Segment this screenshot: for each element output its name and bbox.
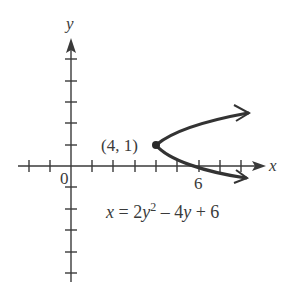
parabola-graph: y x 0 6 (4, 1) x = 2y2 – 4y + 6 — [0, 0, 298, 299]
vertex-point — [152, 141, 160, 149]
vertex-label: (4, 1) — [101, 136, 138, 155]
x-tick-label-6: 6 — [194, 174, 203, 193]
equation-label: x = 2y2 – 4y + 6 — [105, 200, 219, 222]
x-axis — [18, 160, 258, 172]
origin-label: 0 — [60, 169, 69, 188]
parabola-curve — [156, 113, 248, 178]
y-axis-label: y — [64, 14, 74, 33]
y-axis — [65, 46, 77, 282]
x-axis-label: x — [268, 156, 277, 175]
